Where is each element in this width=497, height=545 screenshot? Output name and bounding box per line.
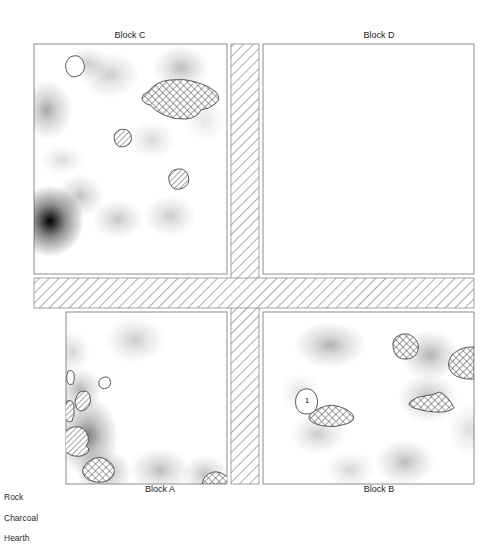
feature-charcoal (169, 169, 189, 190)
legend-item-charcoal: Charcoal (4, 513, 38, 523)
legend-item-rock: Rock (4, 492, 24, 502)
balk-vertical (231, 44, 259, 484)
block-d (263, 44, 474, 274)
block-label-c: Block C (114, 30, 146, 40)
feature-rock (67, 370, 75, 384)
block-b: 1 (263, 312, 492, 489)
balk-horizontal (34, 278, 474, 308)
feature-charcoal (114, 129, 131, 147)
block-d-frame (263, 44, 474, 274)
feature-rock (66, 56, 85, 77)
block-a (54, 312, 231, 494)
block-label-a: Block A (145, 484, 175, 494)
feature-number-label: 1 (305, 396, 310, 405)
feature-rock (99, 377, 111, 389)
block-label-d: Block D (363, 30, 395, 40)
block-c (16, 44, 227, 274)
block-label-b: Block B (364, 484, 395, 494)
archaeological-site-plan: 1 Block C Block D Block A Block B Rock C… (0, 0, 497, 545)
legend-item-hearth: Hearth (4, 533, 30, 543)
